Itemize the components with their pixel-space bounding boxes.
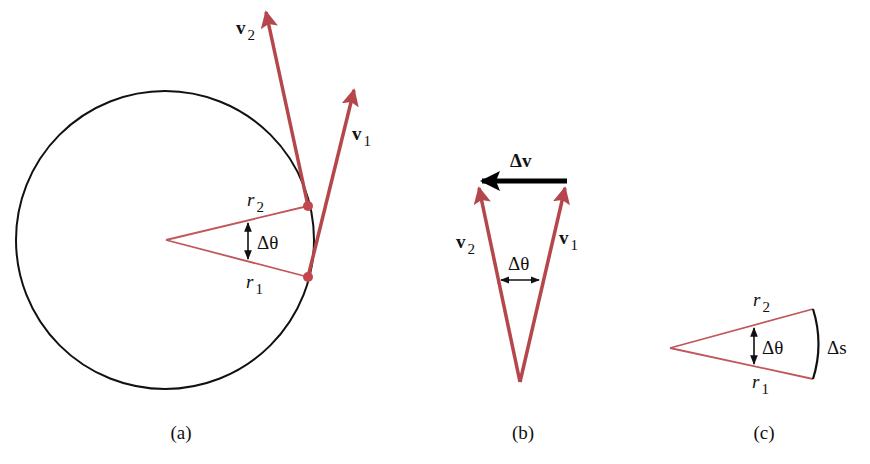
r2-label-a: r2 bbox=[247, 189, 264, 215]
velocity-v1-arrow-b bbox=[520, 188, 565, 382]
v2-label-a: v2 bbox=[236, 17, 255, 43]
arc-delta-s bbox=[813, 309, 819, 379]
panel-b: Δv Δθ v2 v1 (b) bbox=[456, 150, 578, 444]
panel-c: Δθ Δs r2 r1 (c) bbox=[670, 289, 847, 444]
r1-label-c: r1 bbox=[752, 371, 769, 397]
v1-label-b: v1 bbox=[559, 227, 578, 253]
radius-r2 bbox=[166, 206, 308, 240]
v1-label-a: v1 bbox=[352, 123, 371, 149]
angle-label-a: Δθ bbox=[257, 232, 278, 253]
panel-a: Δθ r2 r1 v2 v1 (a) bbox=[16, 12, 371, 444]
velocity-v2-arrow-b bbox=[479, 188, 520, 382]
angle-label-b: Δθ bbox=[508, 253, 529, 274]
arc-label-delta-s: Δs bbox=[827, 337, 847, 358]
point-p1-dot bbox=[303, 272, 313, 282]
caption-a: (a) bbox=[170, 422, 191, 444]
delta-v-label: Δv bbox=[510, 150, 532, 171]
radius-r1-c bbox=[670, 348, 813, 379]
angle-label-c: Δθ bbox=[762, 337, 783, 358]
caption-c: (c) bbox=[753, 422, 774, 444]
point-p2-dot bbox=[303, 201, 313, 211]
velocity-v1-arrow bbox=[308, 90, 354, 277]
r1-label-a: r1 bbox=[246, 271, 263, 297]
v2-label-b: v2 bbox=[456, 231, 475, 257]
figure-canvas: Δθ r2 r1 v2 v1 (a) Δv Δθ v2 v1 (b) Δθ Δs… bbox=[0, 0, 870, 464]
r2-label-c: r2 bbox=[753, 289, 770, 315]
velocity-v2-arrow bbox=[266, 12, 308, 206]
radius-r1 bbox=[166, 240, 308, 277]
radius-r2-c bbox=[670, 309, 813, 348]
caption-b: (b) bbox=[512, 422, 534, 444]
